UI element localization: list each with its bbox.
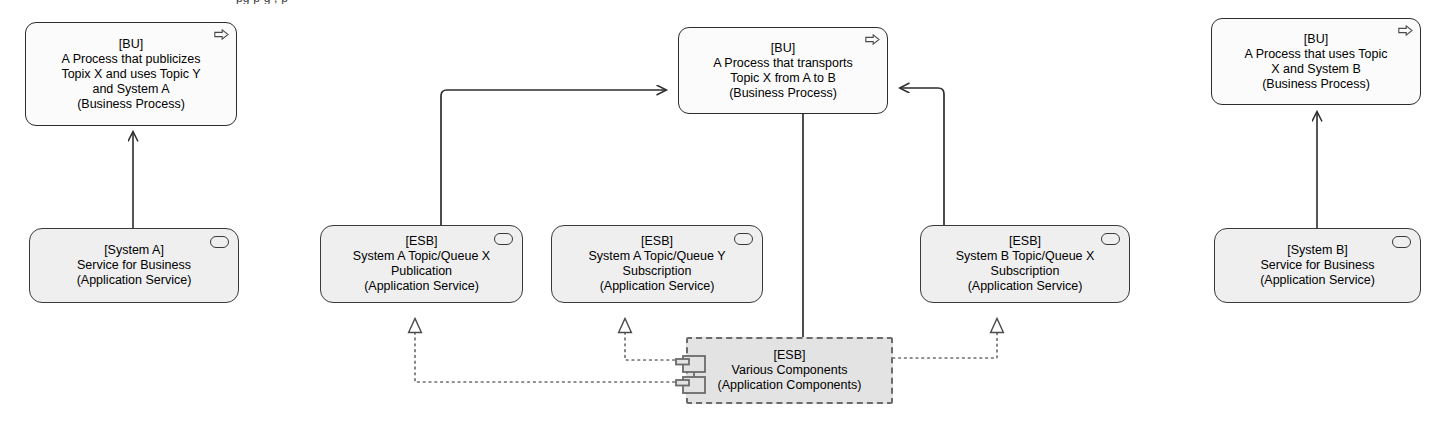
node-type: (Application Service) (954, 279, 1097, 294)
diagram-canvas: pg p g , p (0, 0, 1432, 441)
edge-realization-esb-b-sub (893, 318, 997, 358)
node-type: (Application Service) (586, 279, 729, 294)
node-bu-center[interactable]: [BU] A Process that transports Topic X f… (678, 27, 888, 114)
node-name: A Process that uses Topic X and System B (1231, 47, 1402, 77)
node-name: System A Topic/Queue Y Subscription (574, 249, 739, 279)
node-tag: [ESB] (627, 234, 687, 249)
service-oval-icon (494, 233, 513, 245)
node-esb-various-components[interactable]: [ESB] Various Components (Application Co… (686, 337, 893, 404)
node-tag: [BU] (757, 41, 809, 56)
node-tag: [ESB] (392, 234, 452, 249)
node-esb-a-publication[interactable]: [ESB] System A Topic/Queue X Publication… (320, 225, 523, 303)
service-oval-icon (1392, 236, 1411, 248)
edge-realization-esb-a-pub (415, 318, 686, 382)
uml-component-icon (675, 353, 709, 397)
node-service-system-b[interactable]: [System B] Service for Business (Applica… (1214, 228, 1421, 303)
node-tag: [System B] (1273, 243, 1361, 258)
node-type: (Application Service) (350, 279, 493, 294)
node-type: (Business Process) (63, 97, 199, 112)
node-tag: [ESB] (760, 348, 820, 363)
service-oval-icon (210, 236, 229, 248)
node-bu-right[interactable]: [BU] A Process that uses Topic X and Sys… (1211, 18, 1421, 105)
node-type: (Business Process) (1248, 77, 1384, 92)
node-name: Service for Business (63, 258, 205, 273)
node-esb-b-subscription[interactable]: [ESB] System B Topic/Queue X Subscriptio… (920, 225, 1130, 303)
edge-serving-esb-b-sub (900, 88, 944, 225)
node-name: A Process that publicizes Topix X and us… (47, 52, 214, 97)
process-arrow-icon (214, 29, 229, 40)
node-bu-left[interactable]: [BU] A Process that publicizes Topix X a… (25, 22, 237, 126)
node-type: (Business Process) (715, 86, 851, 101)
node-name: A Process that transports Topic X from A… (699, 56, 867, 86)
process-arrow-icon (1398, 25, 1413, 36)
cropped-title-text: pg p g , p (236, 0, 686, 4)
node-service-system-a[interactable]: [System A] Service for Business (Applica… (29, 228, 239, 303)
node-tag: [System A] (90, 243, 178, 258)
node-name: System B Topic/Queue X Subscription (942, 249, 1109, 279)
node-tag: [BU] (1290, 32, 1342, 47)
node-tag: [ESB] (995, 234, 1055, 249)
service-oval-icon (1101, 233, 1120, 245)
edge-serving-esb-a-pub (441, 90, 666, 225)
node-name: Various Components (718, 363, 862, 378)
process-arrow-icon (865, 34, 880, 45)
node-type: (Application Service) (63, 273, 206, 288)
node-esb-a-subscription[interactable]: [ESB] System A Topic/Queue Y Subscriptio… (551, 225, 763, 303)
node-name: Service for Business (1247, 258, 1389, 273)
node-type: (Application Service) (1246, 273, 1389, 288)
service-oval-icon (734, 233, 753, 245)
node-tag: [BU] (105, 37, 157, 52)
node-type: (Application Components) (704, 378, 876, 393)
node-name: System A Topic/Queue X Publication (339, 249, 504, 279)
